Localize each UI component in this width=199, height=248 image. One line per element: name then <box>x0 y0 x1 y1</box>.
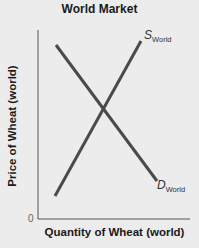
origin-label: 0 <box>28 213 34 224</box>
x-axis-label: Quantity of Wheat (world) <box>30 226 199 238</box>
supply-curve <box>55 41 141 196</box>
demand-curve <box>56 45 157 181</box>
supply-label: SWorld <box>144 28 171 44</box>
demand-label: DWorld <box>157 178 185 194</box>
y-axis-label: Price of Wheat (world) <box>6 56 18 196</box>
